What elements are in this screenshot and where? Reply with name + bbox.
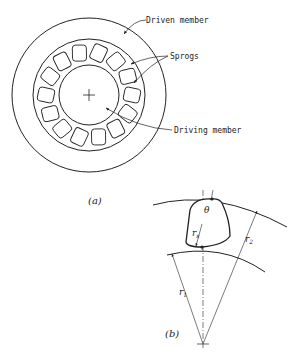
- sprog: [41, 105, 60, 122]
- driving-member-label: Driving member: [174, 126, 242, 135]
- sprog: [72, 45, 86, 61]
- inner-race-arc: [167, 251, 265, 272]
- sprog: [106, 118, 126, 139]
- r2-symbol: r2: [245, 234, 253, 245]
- caption-b: (b): [165, 328, 179, 339]
- sprog-clutch-diagram: Driven member Sprogs Driving member (a) …: [0, 0, 301, 364]
- figure-a: Driven member Sprogs Driving member (a): [12, 16, 242, 206]
- sprogs-leader-1: [131, 56, 168, 64]
- driven-leader: [124, 20, 146, 34]
- contact-point-bottom: [200, 245, 203, 248]
- figure-b: θ rs r1 r2 (b): [153, 190, 287, 348]
- caption-a: (a): [88, 195, 102, 206]
- sprog: [105, 51, 126, 72]
- sprog: [70, 127, 89, 147]
- contact-point-top: [210, 197, 213, 200]
- sprog: [37, 86, 56, 103]
- sprog: [40, 66, 61, 87]
- theta-symbol: θ: [204, 205, 210, 215]
- center-cross-icon: [83, 89, 95, 101]
- sprog: [117, 103, 138, 124]
- r1-symbol: r1: [179, 287, 187, 298]
- sprog: [91, 129, 105, 145]
- sprogs-label: Sprogs: [170, 52, 199, 61]
- sprog: [89, 43, 108, 63]
- sprog: [52, 51, 72, 72]
- sprog: [52, 118, 73, 139]
- driven-member-label: Driven member: [146, 16, 209, 25]
- sprog: [123, 86, 142, 103]
